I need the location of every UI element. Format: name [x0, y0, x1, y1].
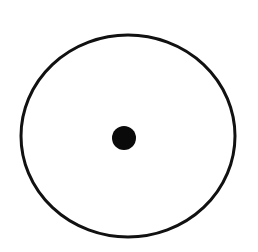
diagram-canvas: [0, 0, 258, 252]
diagram-svg: [0, 0, 258, 252]
center-dot: [112, 126, 136, 150]
